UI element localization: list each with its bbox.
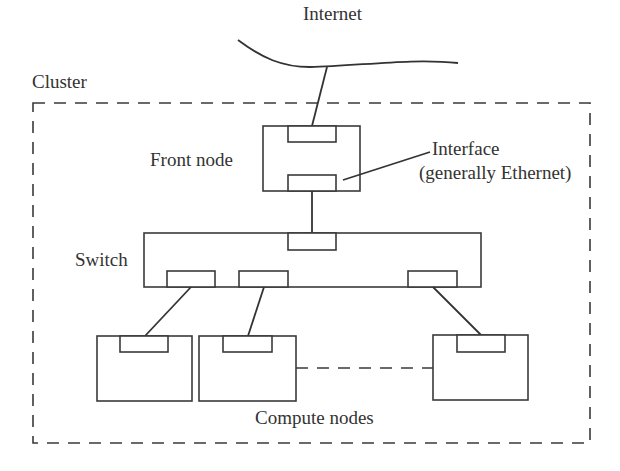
- interface-sublabel: (generally Ethernet): [419, 163, 571, 182]
- cluster-diagram: Internet Cluster Front node Interface (g…: [0, 0, 620, 471]
- front-node-interface-top: [288, 126, 336, 142]
- compute-node-n-interface: [457, 335, 505, 352]
- compute-node-n: [433, 335, 528, 400]
- internet-line: [238, 40, 458, 67]
- compute-node-2-interface: [223, 336, 272, 352]
- front-node-interface-bottom: [288, 175, 336, 191]
- switch-interface-port-1: [167, 271, 215, 287]
- cluster-label: Cluster: [32, 72, 87, 91]
- front-node-label: Front node: [150, 150, 233, 169]
- compute-node-1: [97, 336, 192, 401]
- switch-interface-port-2: [239, 271, 288, 287]
- switch-to-compute-node-1-link: [145, 287, 191, 336]
- front-node: [263, 126, 360, 191]
- switch-to-compute-node-2-link: [248, 287, 264, 336]
- compute-node-1-interface: [120, 336, 168, 352]
- interface-label: Interface: [432, 139, 500, 158]
- switch-interface-port-n: [408, 271, 457, 287]
- internet-to-front-node-link: [312, 67, 327, 126]
- diagram-canvas: [0, 0, 620, 471]
- compute-node-2: [199, 336, 296, 401]
- switch: [144, 233, 481, 287]
- switch-to-compute-node-n-link: [433, 287, 481, 335]
- internet-label: Internet: [303, 4, 362, 23]
- switch-label: Switch: [75, 250, 128, 269]
- switch-interface-uplink: [288, 233, 336, 250]
- compute-nodes-label: Compute nodes: [255, 408, 374, 427]
